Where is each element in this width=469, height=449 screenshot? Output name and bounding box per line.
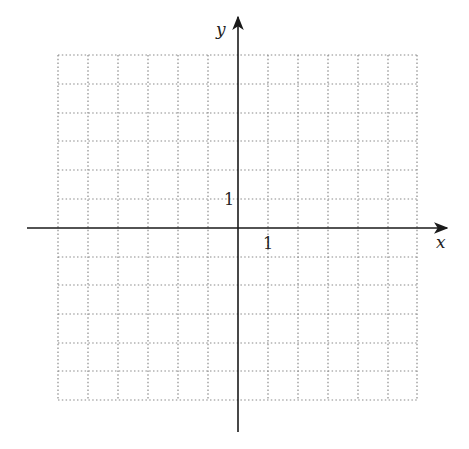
x-unit-label: 1 (263, 234, 273, 253)
y-axis-label: y (215, 19, 226, 39)
x-axis-label: x (436, 232, 446, 252)
y-unit-label: 1 (224, 190, 234, 209)
coordinate-plane: x y 1 1 (0, 0, 469, 449)
